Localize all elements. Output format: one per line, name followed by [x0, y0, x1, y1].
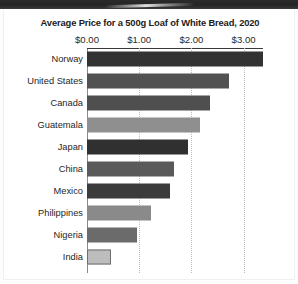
x-tick-label-2: $2.00 [179, 34, 203, 45]
plot-area: $0.00$1.00$2.00$3.00 NorwayUnited States… [4, 34, 296, 280]
category-label-nigeria: Nigeria [54, 230, 83, 240]
bar-mexico [87, 184, 170, 199]
bar-row: Guatemala [4, 114, 296, 136]
bar-row: Nigeria [4, 224, 296, 246]
category-label-norway: Norway [51, 54, 83, 64]
bar-china [87, 162, 174, 177]
chart-title: Average Price for a 500g Loaf of White B… [4, 17, 296, 28]
bar-norway [87, 52, 263, 67]
bar-guatemala [87, 118, 200, 133]
category-label-china: China [59, 164, 83, 174]
bar-united-states [87, 74, 229, 89]
category-label-mexico: Mexico [54, 186, 83, 196]
category-label-united-states: United States [27, 76, 83, 86]
bar-india [87, 250, 111, 265]
category-label-canada: Canada [50, 98, 83, 108]
chart-figure: Average Price for a 500g Loaf of White B… [3, 10, 295, 280]
chart-page: Average Price for a 500g Loaf of White B… [0, 0, 298, 284]
bar-japan [87, 140, 188, 155]
x-tick-label-3: $3.00 [232, 34, 256, 45]
x-axis-tick-labels: $0.00$1.00$2.00$3.00 [4, 34, 296, 48]
bar-row: Norway [4, 48, 296, 70]
bar-row: United States [4, 70, 296, 92]
bar-row: Mexico [4, 180, 296, 202]
bar-row: Japan [4, 136, 296, 158]
bar-row: India [4, 246, 296, 268]
bar-canada [87, 96, 210, 111]
bar-row: Canada [4, 92, 296, 114]
x-tick-label-1: $1.00 [127, 34, 151, 45]
bar-row: China [4, 158, 296, 180]
bar-series: NorwayUnited StatesCanadaGuatemalaJapanC… [4, 48, 296, 273]
bar-philippines [87, 206, 151, 221]
bar-nigeria [87, 228, 137, 243]
category-label-guatemala: Guatemala [38, 120, 83, 130]
x-tick-label-0: $0.00 [75, 34, 99, 45]
category-label-japan: Japan [58, 142, 83, 152]
bar-row: Philippines [4, 202, 296, 224]
category-label-india: India [63, 252, 83, 262]
scanned-page-edge-band [0, 0, 298, 9]
category-label-philippines: Philippines [38, 208, 83, 218]
